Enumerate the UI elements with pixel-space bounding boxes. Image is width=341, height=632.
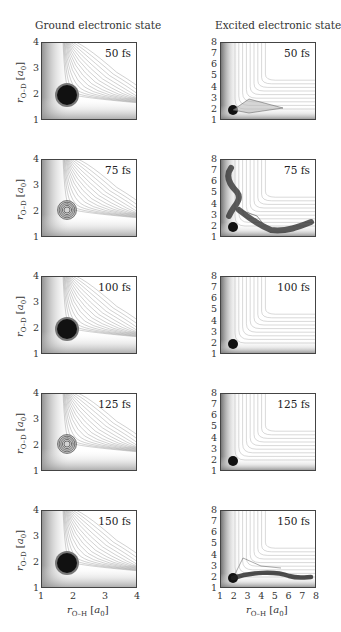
y-tick-label: 4 bbox=[33, 505, 39, 515]
y-tick-label: 7 bbox=[211, 165, 217, 175]
y-tick-label: 3 bbox=[211, 444, 217, 454]
right-column-title: Excited electronic state bbox=[215, 19, 341, 31]
excited-state-panel-50: 50 fs bbox=[220, 42, 316, 120]
y-axis-label: rO–D [a0] bbox=[14, 413, 28, 454]
time-label: 125 fs bbox=[98, 398, 131, 410]
time-label: 50 fs bbox=[284, 47, 310, 59]
y-tick-label: 5 bbox=[211, 538, 217, 548]
x-tick-label: 6 bbox=[286, 591, 292, 601]
time-label: 75 fs bbox=[105, 164, 131, 176]
excited-state-panel-125: 125 fs bbox=[220, 393, 316, 471]
y-tick-label: 4 bbox=[211, 433, 217, 443]
y-tick-label: 2 bbox=[211, 338, 217, 348]
y-tick-label: 5 bbox=[211, 70, 217, 80]
time-label: 75 fs bbox=[284, 164, 310, 176]
y-tick-label: 3 bbox=[211, 561, 217, 571]
y-tick-label: 3 bbox=[211, 93, 217, 103]
y-tick-label: 1 bbox=[211, 115, 217, 125]
y-tick-label: 3 bbox=[33, 63, 39, 73]
y-tick-label: 7 bbox=[211, 516, 217, 526]
x-tick-label: 8 bbox=[313, 591, 319, 601]
x-tick-label: 3 bbox=[102, 591, 108, 601]
y-tick-label: 6 bbox=[211, 59, 217, 69]
ground-state-panel-50: 50 fs bbox=[41, 42, 137, 120]
y-tick-label: 4 bbox=[211, 550, 217, 560]
ground-state-panel-150: 150 fs bbox=[41, 510, 137, 588]
y-tick-label: 8 bbox=[211, 154, 217, 164]
time-label: 100 fs bbox=[98, 281, 131, 293]
y-tick-label: 8 bbox=[211, 388, 217, 398]
y-axis-label: rO–D [a0] bbox=[14, 179, 28, 220]
time-label: 50 fs bbox=[105, 47, 131, 59]
x-tick-label: 4 bbox=[134, 591, 140, 601]
time-label: 100 fs bbox=[277, 281, 310, 293]
y-tick-label: 6 bbox=[211, 410, 217, 420]
y-axis-label: rO–D [a0] bbox=[14, 62, 28, 103]
y-tick-label: 3 bbox=[33, 531, 39, 541]
y-tick-label: 1 bbox=[33, 349, 39, 359]
excited-state-panel-150: 150 fs bbox=[220, 510, 316, 588]
y-tick-label: 8 bbox=[211, 505, 217, 515]
y-tick-label: 7 bbox=[211, 48, 217, 58]
x-tick-label: 1 bbox=[217, 591, 223, 601]
x-axis-label: rO–H [a0] bbox=[67, 604, 109, 618]
y-tick-label: 4 bbox=[33, 388, 39, 398]
y-tick-label: 2 bbox=[33, 206, 39, 216]
y-tick-label: 1 bbox=[33, 232, 39, 242]
time-label: 150 fs bbox=[277, 515, 310, 527]
y-tick-label: 3 bbox=[33, 180, 39, 190]
y-tick-label: 1 bbox=[33, 115, 39, 125]
y-tick-label: 3 bbox=[33, 414, 39, 424]
y-tick-label: 2 bbox=[33, 89, 39, 99]
left-column-title: Ground electronic state bbox=[35, 19, 161, 31]
y-tick-label: 1 bbox=[211, 232, 217, 242]
y-tick-label: 5 bbox=[211, 304, 217, 314]
y-tick-label: 2 bbox=[211, 455, 217, 465]
y-tick-label: 6 bbox=[211, 176, 217, 186]
x-tick-label: 2 bbox=[70, 591, 76, 601]
y-tick-label: 6 bbox=[211, 293, 217, 303]
y-tick-label: 5 bbox=[211, 187, 217, 197]
y-tick-label: 6 bbox=[211, 527, 217, 537]
x-tick-label: 3 bbox=[244, 591, 250, 601]
y-tick-label: 2 bbox=[211, 221, 217, 231]
y-axis-label: rO–D [a0] bbox=[14, 296, 28, 337]
ground-state-panel-100: 100 fs bbox=[41, 276, 137, 354]
y-tick-label: 8 bbox=[211, 37, 217, 47]
x-tick-label: 7 bbox=[299, 591, 305, 601]
excited-state-panel-75: 75 fs bbox=[220, 159, 316, 237]
y-tick-label: 4 bbox=[33, 37, 39, 47]
y-axis-label: rO–D [a0] bbox=[14, 530, 28, 571]
y-tick-label: 2 bbox=[211, 104, 217, 114]
y-tick-label: 2 bbox=[33, 440, 39, 450]
y-tick-label: 2 bbox=[33, 323, 39, 333]
y-tick-label: 2 bbox=[33, 557, 39, 567]
x-tick-label: 4 bbox=[258, 591, 264, 601]
y-tick-label: 5 bbox=[211, 421, 217, 431]
y-tick-label: 1 bbox=[211, 349, 217, 359]
y-tick-label: 4 bbox=[211, 316, 217, 326]
ground-state-panel-125: 125 fs bbox=[41, 393, 137, 471]
y-tick-label: 7 bbox=[211, 399, 217, 409]
x-tick-label: 2 bbox=[231, 591, 237, 601]
y-tick-label: 3 bbox=[33, 297, 39, 307]
y-tick-label: 7 bbox=[211, 282, 217, 292]
x-tick-label: 1 bbox=[38, 591, 44, 601]
y-tick-label: 1 bbox=[33, 466, 39, 476]
x-tick-label: 5 bbox=[272, 591, 278, 601]
time-label: 150 fs bbox=[98, 515, 131, 527]
y-tick-label: 4 bbox=[211, 199, 217, 209]
time-label: 125 fs bbox=[277, 398, 310, 410]
ground-state-panel-75: 75 fs bbox=[41, 159, 137, 237]
y-tick-label: 3 bbox=[211, 210, 217, 220]
excited-state-panel-100: 100 fs bbox=[220, 276, 316, 354]
y-tick-label: 4 bbox=[211, 82, 217, 92]
y-tick-label: 3 bbox=[211, 327, 217, 337]
y-tick-label: 4 bbox=[33, 154, 39, 164]
y-tick-label: 1 bbox=[211, 466, 217, 476]
x-axis-label: rO–H [a0] bbox=[246, 604, 288, 618]
y-tick-label: 2 bbox=[211, 572, 217, 582]
y-tick-label: 4 bbox=[33, 271, 39, 281]
y-tick-label: 8 bbox=[211, 271, 217, 281]
